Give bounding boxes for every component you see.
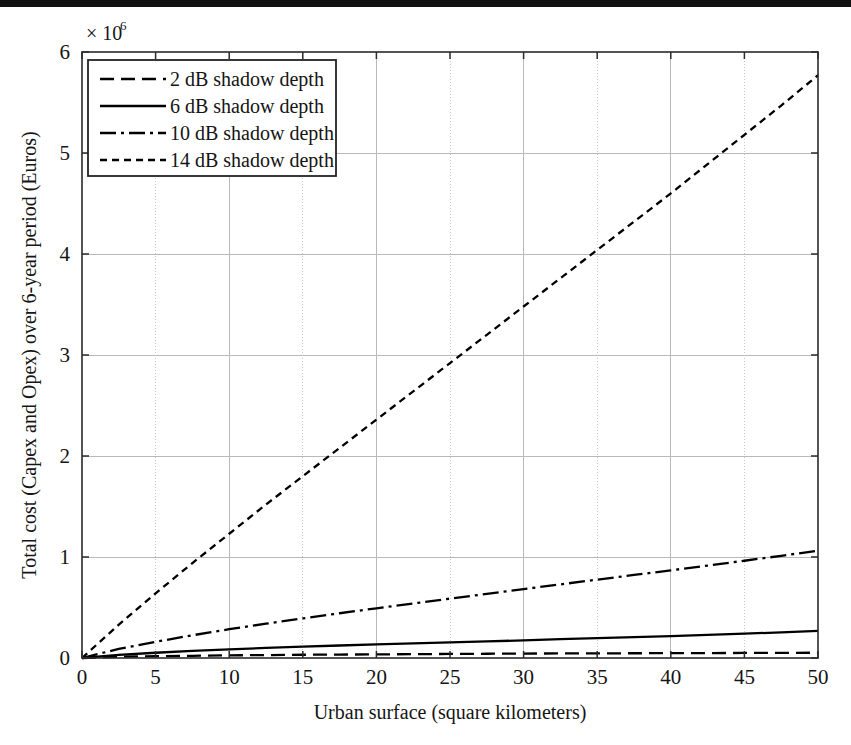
x-tick-label: 5 [150, 665, 161, 689]
y-tick-label: 1 [60, 545, 71, 569]
y-axis-exponent-power: 6 [120, 18, 127, 33]
x-tick-label: 20 [366, 665, 387, 689]
x-tick-label: 25 [440, 665, 461, 689]
y-tick-label: 0 [60, 646, 71, 670]
y-axis-title: Total cost (Capex and Opex) over 6-year … [18, 131, 41, 578]
y-tick-label: 2 [60, 444, 71, 468]
x-axis-title: Urban surface (square kilometers) [314, 701, 587, 724]
x-tick-label: 40 [660, 665, 681, 689]
legend-label-2: 10 dB shadow depth [170, 122, 334, 145]
cost-vs-urban-surface-line-chart: 051015202530354045500123456× 106Urban su… [0, 0, 851, 745]
legend-label-0: 2 dB shadow depth [170, 68, 324, 91]
x-tick-label: 10 [219, 665, 240, 689]
x-tick-label: 0 [77, 665, 88, 689]
x-tick-label: 45 [734, 665, 755, 689]
y-tick-label: 5 [60, 141, 71, 165]
y-tick-label: 6 [60, 40, 71, 64]
x-tick-label: 50 [808, 665, 829, 689]
x-tick-label: 35 [587, 665, 608, 689]
y-axis-exponent-label: × 10 [86, 22, 122, 44]
legend-label-1: 6 dB shadow depth [170, 95, 324, 118]
bottom-rule-divider [0, 0, 851, 7]
legend-label-3: 14 dB shadow depth [170, 149, 334, 172]
x-tick-label: 30 [513, 665, 534, 689]
figure-root: 051015202530354045500123456× 106Urban su… [0, 0, 851, 745]
y-tick-label: 3 [60, 343, 71, 367]
x-tick-label: 15 [292, 665, 313, 689]
y-tick-label: 4 [60, 242, 71, 266]
